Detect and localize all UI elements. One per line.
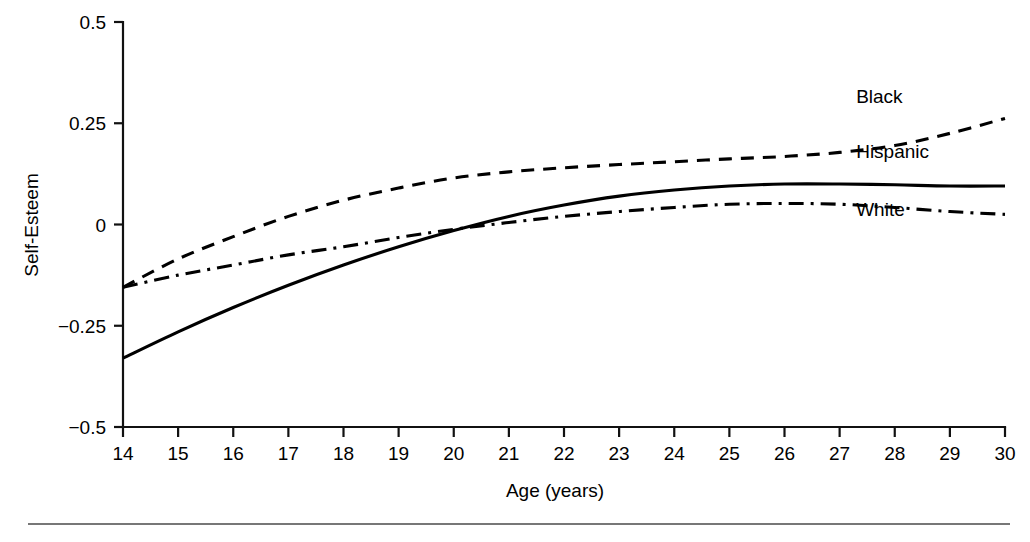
- y-axis-title: Self-Esteem: [21, 173, 42, 276]
- x-axis-tick-label: 14: [112, 443, 134, 464]
- x-axis-tick-label: 20: [443, 443, 464, 464]
- x-axis-tick-label: 16: [223, 443, 244, 464]
- x-axis-tick-label: 15: [168, 443, 189, 464]
- x-axis-tick-label: 26: [774, 443, 795, 464]
- x-axis-tick-label: 19: [388, 443, 409, 464]
- series-label-black: Black: [856, 86, 903, 107]
- y-axis-tick-label: 0: [95, 215, 106, 236]
- x-axis-tick-label: 27: [829, 443, 850, 464]
- x-axis-tick-labels: 1415161718192021222324252627282930: [112, 443, 1015, 464]
- x-axis-tick-label: 24: [664, 443, 686, 464]
- y-axis-tick-label: −0.5: [68, 417, 106, 438]
- y-axis-tick-labels: 0.50.250−0.25−0.5: [58, 12, 106, 438]
- series-inline-labels: BlackHispanicWhite: [856, 86, 929, 220]
- x-axis-tick-label: 23: [609, 443, 630, 464]
- y-axis-tick-label: −0.25: [58, 316, 106, 337]
- y-axis-tick-label: 0.25: [69, 113, 106, 134]
- x-axis-tick-label: 28: [884, 443, 905, 464]
- series-label-white: White: [856, 199, 905, 220]
- x-axis-ticks: [123, 427, 1005, 437]
- x-axis-tick-label: 22: [553, 443, 574, 464]
- x-axis-tick-label: 21: [498, 443, 519, 464]
- chart-figure: 0.50.250−0.25−0.5 1415161718192021222324…: [0, 0, 1030, 542]
- x-axis-tick-label: 25: [719, 443, 740, 464]
- x-axis-title: Age (years): [506, 480, 604, 501]
- x-axis-tick-label: 18: [333, 443, 354, 464]
- series-label-hispanic: Hispanic: [856, 141, 929, 162]
- y-axis-ticks: [114, 22, 123, 427]
- y-axis-tick-label: 0.5: [80, 12, 106, 33]
- x-axis-tick-label: 30: [994, 443, 1015, 464]
- self-esteem-by-age-line-chart: 0.50.250−0.25−0.5 1415161718192021222324…: [0, 0, 1030, 542]
- x-axis-tick-label: 29: [939, 443, 960, 464]
- x-axis-tick-label: 17: [278, 443, 299, 464]
